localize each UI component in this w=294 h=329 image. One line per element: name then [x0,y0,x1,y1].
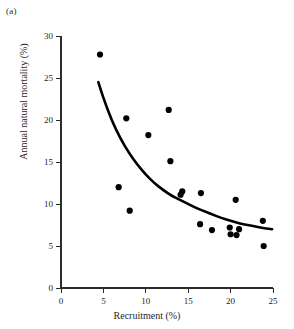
data-point [261,243,267,249]
data-point [179,188,185,194]
data-point [166,107,172,113]
data-point [228,231,234,237]
x-tick-label: 5 [101,296,106,306]
data-point [197,221,203,227]
figure-panel-a: (a) 0510152025051015202530 Recruitment (… [0,0,294,329]
y-tick-label: 25 [31,73,53,83]
data-point [167,158,173,164]
y-tick-label: 0 [31,283,53,293]
data-point [209,227,215,233]
data-point [97,51,103,57]
data-point [198,190,204,196]
data-point [233,197,239,203]
x-tick-label: 20 [226,296,235,306]
axes-group [56,36,273,293]
axis-spine [61,36,273,288]
data-point [233,232,239,238]
fit-curve [98,82,272,229]
data-point [236,226,242,232]
data-point [227,224,233,230]
y-tick-label: 10 [31,199,53,209]
y-tick-label: 30 [31,31,53,41]
y-tick-label: 15 [31,157,53,167]
x-tick-label: 10 [141,296,150,306]
y-tick-label: 20 [31,115,53,125]
x-tick-label: 25 [269,296,278,306]
data-point [123,115,129,121]
data-point [260,218,266,224]
data-points-group [97,51,267,249]
y-tick-label: 5 [31,241,53,251]
fit-curve-group [98,82,272,229]
data-point [127,208,133,214]
y-axis-title: Annual natural mortality (%) [18,17,29,187]
x-tick-label: 0 [59,296,64,306]
data-point [116,184,122,190]
x-axis-title: Recruitment (%) [0,310,294,321]
x-tick-label: 15 [184,296,193,306]
data-point [145,132,151,138]
